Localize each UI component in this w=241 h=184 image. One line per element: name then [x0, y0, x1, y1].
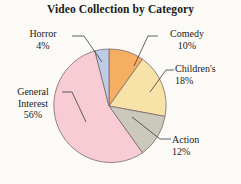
- pie-slices: [54, 49, 166, 163]
- slice-label-general-interest-name-line1: General: [17, 86, 49, 97]
- slice-label-comedy-value: 10%: [158, 40, 216, 52]
- slice-label-comedy: Comedy 10%: [158, 28, 216, 51]
- slice-label-horror-name: Horror: [29, 28, 56, 39]
- chart-figure: Video Collection by Category Horror 4% C…: [0, 0, 241, 184]
- slice-label-comedy-name: Comedy: [170, 28, 204, 39]
- slice-label-action: Action 12%: [172, 134, 226, 157]
- slice-label-childrens: Children's 18%: [175, 63, 239, 86]
- slice-label-horror-value: 4%: [14, 40, 72, 52]
- slice-label-action-value: 12%: [172, 146, 226, 158]
- slice-label-general-interest: General Interest 56%: [4, 86, 62, 121]
- slice-label-childrens-name: Children's: [175, 63, 216, 74]
- slice-label-horror: Horror 4%: [14, 28, 72, 51]
- slice-label-general-interest-name-line2: Interest: [4, 98, 62, 110]
- slice-label-childrens-value: 18%: [175, 75, 239, 87]
- slice-label-action-name: Action: [172, 134, 199, 145]
- slice-label-general-interest-value: 56%: [4, 109, 62, 121]
